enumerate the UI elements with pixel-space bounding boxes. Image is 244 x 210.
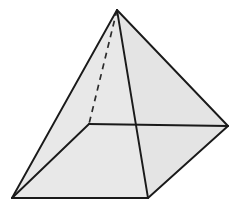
figure-container — [0, 0, 244, 210]
square-pyramid-diagram — [0, 0, 244, 210]
